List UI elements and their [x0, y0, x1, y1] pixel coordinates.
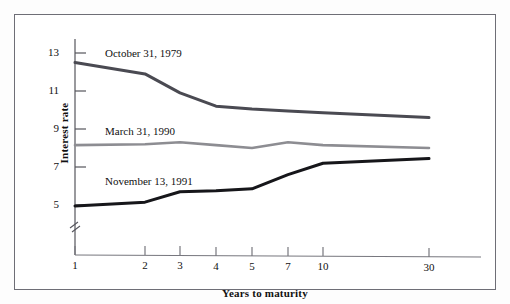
- y-tick-marks: [75, 53, 86, 205]
- x-tick-label-4: 4: [204, 260, 228, 272]
- y-tick-label-5: 5: [41, 198, 59, 210]
- x-tick-label-5: 5: [240, 260, 264, 272]
- x-axis-title: Years to maturity: [165, 287, 365, 299]
- series-annotation-october-31-1979: October 31, 1979: [105, 47, 182, 59]
- y-axis-title: Interest rate: [58, 78, 70, 188]
- series-line-october-31-1979: [75, 63, 429, 118]
- y-tick-label-7: 7: [41, 160, 59, 172]
- x-tick-label-3: 3: [168, 259, 192, 271]
- y-tick-label-9: 9: [41, 122, 59, 134]
- y-tick-label-13: 13: [41, 46, 59, 58]
- line-chart-plot: [15, 15, 495, 289]
- x-tick-label-30: 30: [417, 261, 441, 273]
- series-annotation-november-13-1991: November 13, 1991: [105, 175, 193, 187]
- chart-figure: 13 11 9 7 5 1 2 3 4 5 7 10 30 Interest r…: [0, 0, 510, 304]
- x-axis-line: [75, 255, 481, 257]
- x-tick-label-10: 10: [311, 260, 335, 272]
- figure-frame: 13 11 9 7 5 1 2 3 4 5 7 10 30 Interest r…: [14, 14, 496, 290]
- series-annotation-march-31-1990: March 31, 1990: [105, 125, 175, 137]
- series-line-march-31-1990: [75, 142, 429, 148]
- x-tick-label-1: 1: [63, 259, 87, 271]
- x-tick-label-2: 2: [133, 259, 157, 271]
- y-tick-label-11: 11: [41, 84, 59, 96]
- x-tick-label-7: 7: [276, 260, 300, 272]
